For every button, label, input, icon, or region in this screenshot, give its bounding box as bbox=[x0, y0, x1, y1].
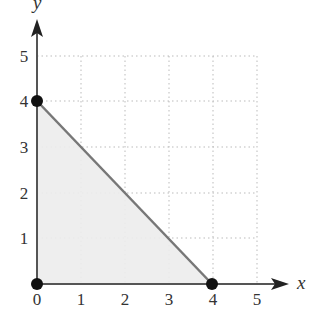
x-tick-2: 2 bbox=[121, 290, 130, 309]
y-tick-1: 1 bbox=[20, 229, 29, 248]
y-tick-5: 5 bbox=[20, 47, 29, 66]
x-tick-1: 1 bbox=[77, 290, 86, 309]
vertex-origin bbox=[31, 278, 43, 290]
x-tick-4: 4 bbox=[209, 290, 218, 309]
y-tick-4: 4 bbox=[20, 92, 29, 111]
x-axis-label: x bbox=[296, 272, 306, 293]
y-tick-labels: 1 2 3 4 5 bbox=[20, 47, 29, 248]
y-tick-2: 2 bbox=[20, 184, 29, 203]
x-tick-0: 0 bbox=[33, 290, 42, 309]
chart: 0 1 2 3 4 5 1 2 3 4 5 x y bbox=[0, 0, 313, 314]
vertex-x4 bbox=[206, 278, 218, 290]
x-tick-3: 3 bbox=[165, 290, 174, 309]
y-axis-label: y bbox=[31, 0, 42, 13]
vertex-y4 bbox=[31, 95, 43, 107]
x-tick-5: 5 bbox=[253, 290, 262, 309]
x-tick-labels: 0 1 2 3 4 5 bbox=[33, 290, 262, 309]
y-tick-3: 3 bbox=[20, 138, 29, 157]
